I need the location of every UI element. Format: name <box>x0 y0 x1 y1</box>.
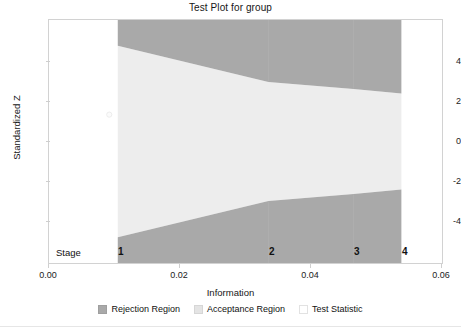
xtick-mark-004 <box>310 264 311 268</box>
plot-graphics <box>49 20 442 263</box>
ytick-label-4: 4 <box>435 56 461 66</box>
x-axis-title: Information <box>0 287 461 298</box>
ytick-label-0: 0 <box>435 136 461 146</box>
legend-item-acceptance-region: Acceptance Region <box>194 305 285 314</box>
ytick-mark-4 <box>46 61 50 62</box>
ytick-label-2: 2 <box>435 96 461 106</box>
xtick-mark-0 <box>48 264 49 268</box>
xtick-label-0: 0.00 <box>28 270 68 280</box>
legend-swatch-rejection-icon <box>98 305 107 314</box>
ytick-mark-0 <box>46 141 50 142</box>
chart-legend: Rejection Region Acceptance Region Test … <box>0 305 461 314</box>
xtick-label-004: 0.04 <box>290 270 330 280</box>
xtick-label-006: 0.06 <box>421 270 461 280</box>
stage-axis-label: Stage <box>56 247 81 258</box>
stage-label-1: 1 <box>118 246 134 257</box>
legend-item-rejection-region: Rejection Region <box>98 305 180 314</box>
ytick-label-neg2: -2 <box>435 176 461 186</box>
legend-label-acceptance: Acceptance Region <box>207 305 285 314</box>
legend-label-rejection: Rejection Region <box>111 305 180 314</box>
chart-root: Test Plot for group 4 2 0 -2 -4 0.00 0.0… <box>0 0 461 330</box>
legend-item-test-statistic: Test Statistic <box>299 305 363 314</box>
ytick-mark-2 <box>46 101 50 102</box>
plot-area <box>48 19 443 264</box>
xtick-mark-002 <box>179 264 180 268</box>
plot-inner <box>49 20 442 263</box>
y-axis-title: Standardized Z <box>11 68 22 188</box>
xtick-label-002: 0.02 <box>159 270 199 280</box>
stage-label-4: 4 <box>402 246 418 257</box>
legend-swatch-acceptance-icon <box>194 305 203 314</box>
legend-label-test-statistic: Test Statistic <box>312 305 363 314</box>
ytick-mark-neg4 <box>46 221 50 222</box>
ytick-label-neg4: -4 <box>435 216 461 226</box>
stage-label-3: 3 <box>354 246 370 257</box>
chart-title: Test Plot for group <box>0 2 461 13</box>
legend-swatch-test-statistic-icon <box>299 305 308 314</box>
ytick-mark-neg2 <box>46 181 50 182</box>
legend-divider <box>0 326 461 327</box>
xtick-mark-006 <box>441 264 442 268</box>
stage-label-2: 2 <box>269 246 285 257</box>
